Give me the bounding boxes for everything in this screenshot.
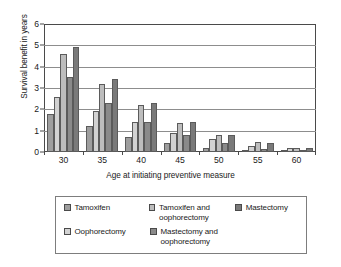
x-tick: 40 — [122, 152, 161, 166]
y-tick-label: 0 — [34, 148, 39, 157]
legend-label: Oophorectomy — [75, 227, 126, 237]
bar — [151, 103, 157, 152]
y-tick-label: 2 — [34, 105, 39, 114]
x-tick: 60 — [277, 152, 316, 166]
bar-group — [122, 24, 161, 152]
plot-area: 0123456 — [44, 24, 316, 152]
y-tick-label: 3 — [34, 84, 39, 93]
x-tick-label: 50 — [199, 155, 238, 165]
legend-item-mastectomy-and-oophorectomy: Mastectomy and oophorectomy — [150, 227, 238, 246]
legend-row-2: Oophorectomy Mastectomy and oophorectomy — [64, 227, 306, 246]
legend-item-tamoxifen: Tamoxifen — [64, 203, 149, 213]
y-tick-label: 1 — [34, 126, 39, 135]
y-tick-label: 6 — [34, 20, 39, 29]
bar-group — [83, 24, 122, 152]
x-tick: 45 — [161, 152, 200, 166]
x-tick-label: 60 — [277, 155, 316, 165]
legend-item-oophorectomy: Oophorectomy — [64, 227, 150, 237]
x-tick-label: 40 — [122, 155, 161, 165]
x-tick: 35 — [83, 152, 122, 166]
y-tick-label: 5 — [34, 41, 39, 50]
legend-swatch-icon — [149, 204, 156, 211]
x-tick: 50 — [199, 152, 238, 166]
bar-group — [277, 24, 316, 152]
x-tick: 30 — [44, 152, 83, 166]
legend-item-mastectomy: Mastectomy — [235, 203, 306, 213]
x-tick: 55 — [238, 152, 277, 166]
y-axis-title: Survival benefit in years — [20, 0, 29, 127]
bar — [190, 122, 196, 152]
legend-label: Mastectomy and oophorectomy — [161, 227, 218, 246]
legend-swatch-icon — [150, 228, 157, 235]
bar-groups — [44, 24, 316, 152]
legend-row-1: Tamoxifen Tamoxifen and oophorectomy Mas… — [64, 203, 306, 222]
legend: Tamoxifen Tamoxifen and oophorectomy Mas… — [55, 196, 307, 254]
chart-figure: Survival benefit in years 0123456 303540… — [0, 0, 341, 267]
legend-label: Tamoxifen and oophorectomy — [159, 203, 210, 222]
legend-swatch-icon — [64, 204, 71, 211]
legend-label: Mastectomy — [246, 203, 288, 213]
legend-swatch-icon — [235, 204, 242, 211]
x-tick-label: 35 — [83, 155, 122, 165]
x-tick-label: 55 — [238, 155, 277, 165]
legend-item-tamoxifen-and-oophorectomy: Tamoxifen and oophorectomy — [149, 203, 236, 222]
y-tick-label: 4 — [34, 62, 39, 71]
bar-group — [199, 24, 238, 152]
legend-swatch-icon — [64, 228, 71, 235]
legend-label: Tamoxifen — [75, 203, 111, 213]
x-axis-title: Age at initiating preventive measure — [0, 171, 341, 180]
x-tick-label: 45 — [161, 155, 200, 165]
bar-group — [44, 24, 83, 152]
bar — [73, 47, 79, 152]
bar-group — [238, 24, 277, 152]
bar — [112, 79, 118, 152]
x-tick-label: 30 — [44, 155, 83, 165]
bar — [228, 135, 234, 152]
bar-group — [161, 24, 200, 152]
bar — [267, 143, 273, 152]
x-axis-ticks: 30354045505560 — [44, 152, 316, 166]
